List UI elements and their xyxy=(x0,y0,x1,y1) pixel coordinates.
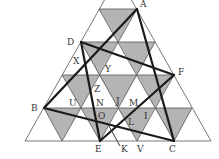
label-D: D xyxy=(67,37,74,47)
label-K: K xyxy=(121,144,128,154)
label-Z: Z xyxy=(94,84,100,94)
label-O: O xyxy=(98,111,105,121)
label-B: B xyxy=(31,103,38,113)
label-C: C xyxy=(169,144,176,154)
label-M: M xyxy=(129,98,138,108)
label-F: F xyxy=(178,67,184,77)
label-V: V xyxy=(136,144,144,154)
label-E: E xyxy=(95,144,102,154)
label-X: X xyxy=(73,56,80,66)
label-N: N xyxy=(96,98,104,108)
label-I: I xyxy=(144,111,148,121)
triangle-grid-diagram: A D X Y F Z B U N J M O L I E K V C xyxy=(0,0,219,159)
label-J: J xyxy=(115,96,120,106)
label-Y: Y xyxy=(104,64,112,74)
label-A: A xyxy=(139,0,147,9)
label-U: U xyxy=(69,98,77,108)
label-L: L xyxy=(128,117,134,127)
